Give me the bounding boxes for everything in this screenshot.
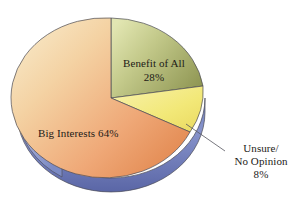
pie-chart-graphic: [0, 0, 296, 217]
slice-label-big-interests: Big Interests 64%: [38, 127, 119, 140]
slice-label-benefit-title: Benefit of All: [123, 57, 185, 69]
slice-label-unsure-line2: No Opinion: [228, 155, 294, 168]
slice-label-unsure-no-opinion: Unsure/ No Opinion 8%: [228, 142, 294, 181]
slice-label-benefit-of-all: Benefit of All 28%: [111, 57, 197, 84]
slice-label-benefit-percent: 28%: [111, 71, 197, 84]
slice-label-unsure-line1: Unsure/: [228, 142, 294, 155]
slice-label-big-interests-text: Big Interests 64%: [38, 127, 119, 139]
pie-chart: Benefit of All 28% Big Interests 64% Uns…: [0, 0, 296, 217]
slice-label-unsure-percent: 8%: [228, 168, 294, 181]
pie-slices: [11, 18, 203, 178]
